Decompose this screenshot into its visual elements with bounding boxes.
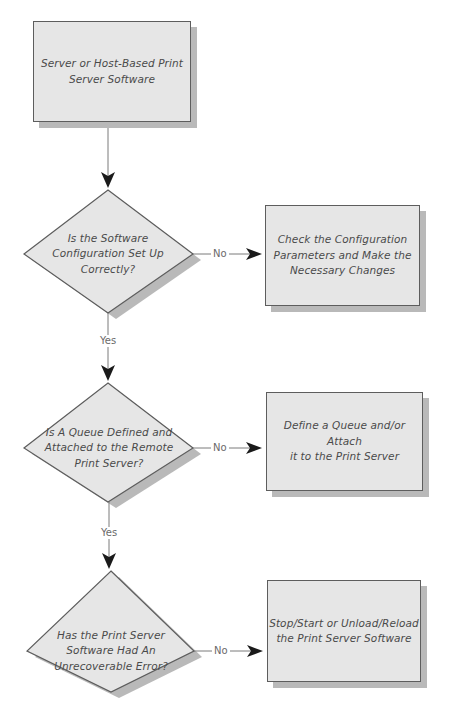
action-2-line-2: it to the Print Server — [290, 450, 399, 462]
action-2-box[interactable]: Define a Queue and/or Attach it to the P… — [266, 392, 423, 491]
action-1-box[interactable]: Check the Configuration Parameters and M… — [265, 205, 420, 306]
start-box-label: Server or Host-Based Print Server Softwa… — [41, 56, 183, 87]
decision-1-line-1: Is the Software — [68, 232, 149, 244]
decision-2-line-1: Is A Queue Defined and — [46, 426, 173, 438]
decision-2-yes-label: Yes — [99, 527, 119, 539]
start-line-1: Server or Host-Based Print — [41, 57, 183, 69]
decision-1-label: Is the Software Configuration Set Up Cor… — [44, 222, 172, 286]
action-3-label: Stop/Start or Unload/Reload the Print Se… — [269, 616, 419, 647]
action-3-box[interactable]: Stop/Start or Unload/Reload the Print Se… — [267, 580, 421, 682]
decision-2-no-label: No — [211, 442, 229, 454]
decision-1-line-3: Correctly? — [81, 263, 135, 275]
action-1-line-2: Parameters and Make the — [274, 249, 412, 261]
action-1-line-1: Check the Configuration — [278, 233, 408, 245]
action-1-label: Check the Configuration Parameters and M… — [274, 232, 412, 279]
decision-1-yes-label: Yes — [98, 335, 118, 347]
decision-2-line-3: Print Server? — [75, 457, 144, 469]
decision-2-line-2: Attached to the Remote — [45, 441, 173, 453]
action-3-line-1: Stop/Start or Unload/Reload — [269, 617, 419, 629]
action-3-line-2: the Print Server Software — [276, 632, 411, 644]
decision-3-line-2: Software Had An — [66, 644, 156, 656]
decision-1-no-label: No — [211, 248, 229, 260]
decision-3-no-label: No — [212, 645, 230, 657]
decision-1-line-2: Configuration Set Up — [52, 247, 163, 259]
decision-3-label: Has the Print Server Software Had An Unr… — [45, 619, 177, 683]
action-1-line-3: Necessary Changes — [290, 264, 395, 276]
action-2-label: Define a Queue and/or Attach it to the P… — [267, 418, 422, 465]
start-line-2: Server Software — [69, 73, 155, 85]
decision-2-label: Is A Queue Defined and Attached to the R… — [38, 416, 180, 480]
action-2-line-1: Define a Queue and/or Attach — [284, 419, 405, 447]
start-box[interactable]: Server or Host-Based Print Server Softwa… — [33, 21, 191, 122]
decision-3-line-1: Has the Print Server — [57, 629, 165, 641]
decision-3-line-3: Unrecoverable Error? — [54, 660, 168, 672]
